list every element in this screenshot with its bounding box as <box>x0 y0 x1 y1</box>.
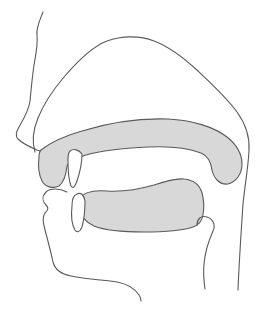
tongue-shape <box>78 179 204 232</box>
upper-incisor-tooth <box>68 150 82 188</box>
epiglottis-larynx-line <box>197 216 214 289</box>
vocal-tract-diagram <box>0 0 265 319</box>
vocal-tract-svg <box>0 0 265 319</box>
face-profile-line <box>16 12 43 151</box>
lower-incisor-tooth <box>72 193 85 231</box>
